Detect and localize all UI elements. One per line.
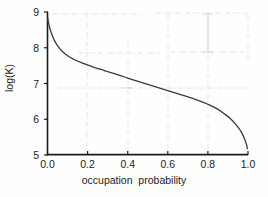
- x-tick-label: 0.4: [115, 158, 141, 170]
- y-tick-label: 8: [25, 42, 39, 54]
- y-tick-label: 7: [25, 78, 39, 90]
- y-axis-title: log(K): [3, 50, 15, 106]
- scan-artifact-gridlines: [52, 12, 250, 152]
- data-series-line: [48, 17, 248, 148]
- x-tick-label: 1.0: [235, 158, 261, 170]
- x-tick-label: 0.0: [35, 158, 61, 170]
- chart-figure: 9 8 7 6 5 0.0 0.2 0.4 0.6 0.8 1.0 occupa…: [0, 0, 268, 197]
- x-tick-label: 0.8: [195, 158, 221, 170]
- x-tick-label: 0.6: [155, 158, 181, 170]
- y-tick-label: 6: [25, 113, 39, 125]
- x-axis-title: occupation probability: [0, 174, 268, 186]
- axis-spines: [47, 12, 248, 155]
- y-tick-label: 9: [25, 6, 39, 18]
- x-tick-label: 0.2: [75, 158, 101, 170]
